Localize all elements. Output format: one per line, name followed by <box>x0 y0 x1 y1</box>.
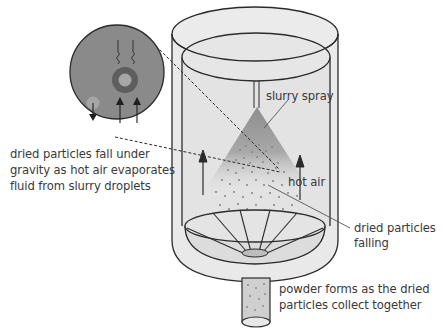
magnified-droplet-inset <box>70 25 164 123</box>
label-dried-particles-falling-1: dried particles <box>354 221 436 236</box>
label-slurry-spray: slurry spray <box>266 89 333 104</box>
label-inset-caption-3: fluid from slurry droplets <box>10 179 151 194</box>
label-powder-1: powder forms as the dried <box>279 282 430 297</box>
label-dried-particles-falling-2: falling <box>354 236 389 251</box>
collection-funnel <box>185 210 325 264</box>
powder-outlet-pipe <box>242 278 270 327</box>
label-powder-2: particles collect together <box>279 298 421 313</box>
label-inset-caption-1: dried particles fall under <box>10 147 150 162</box>
label-hot-air: hot air <box>288 175 325 190</box>
label-inset-caption-2: gravity as hot air evaporates <box>10 163 175 178</box>
